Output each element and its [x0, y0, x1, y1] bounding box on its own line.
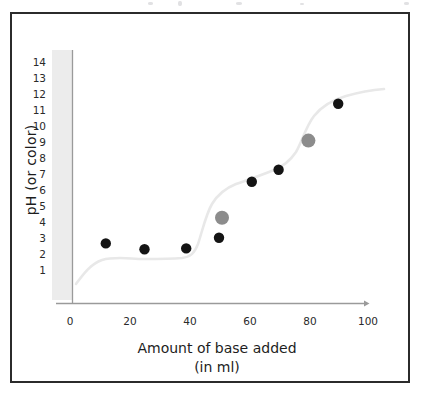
y-tick-label: 13 [20, 73, 46, 83]
x-tick-label: 80 [295, 316, 325, 326]
x-tick-label: 40 [175, 316, 205, 326]
x-axis-title-units: (in ml) [52, 358, 382, 377]
data-point [101, 238, 111, 248]
x-tick-label: 60 [235, 316, 265, 326]
data-point-highlight [301, 134, 315, 148]
titration-curve-chart [12, 14, 412, 385]
data-point [273, 165, 283, 175]
data-point [214, 233, 224, 243]
y-tick-label: 1 [20, 265, 46, 275]
page-bleed-artifacts [0, 0, 424, 9]
x-tick-label: 20 [115, 316, 145, 326]
y-tick-label: 14 [20, 57, 46, 67]
y-tick-label: 2 [20, 249, 46, 259]
x-axis-title: Amount of base added (in ml) [52, 339, 382, 377]
x-tick-label: 100 [353, 316, 383, 326]
x-axis-arrowhead [364, 301, 370, 307]
x-axis-title-main: Amount of base added [52, 339, 382, 358]
ph-color-strip [52, 50, 72, 300]
figure-frame: 14 13 12 11 10 9 8 7 6 5 4 3 2 1 0 20 40… [10, 12, 410, 383]
data-point-highlight [215, 211, 229, 225]
data-point [247, 177, 257, 187]
x-tick-label: 0 [55, 316, 85, 326]
y-tick-label: 12 [20, 89, 46, 99]
chart-plot-area: 14 13 12 11 10 9 8 7 6 5 4 3 2 1 0 20 40… [12, 14, 412, 385]
y-axis-title: pH (or color) [23, 105, 39, 235]
data-point [333, 99, 343, 109]
data-point [181, 243, 191, 253]
titration-curve-path [76, 89, 384, 284]
data-point [139, 244, 149, 254]
